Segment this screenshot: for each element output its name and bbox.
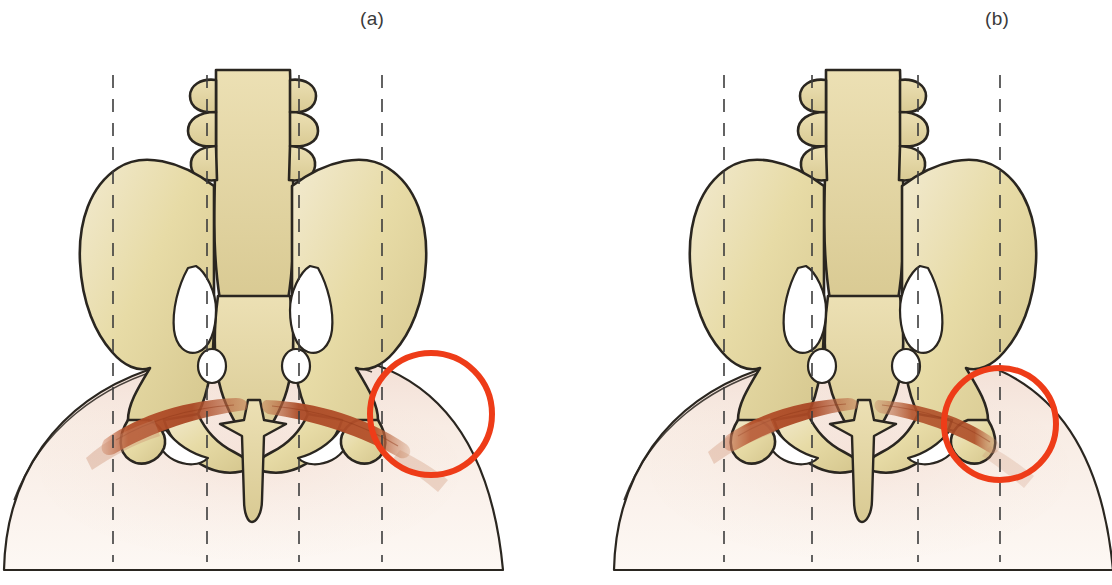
transverse-process-right-2-b — [900, 112, 928, 146]
panel-b-illustration — [0, 0, 1112, 585]
transverse-process-right-1-b — [900, 80, 926, 113]
panel-b-anatomy — [614, 70, 1112, 570]
lumbar-column-b — [824, 70, 904, 300]
transverse-process-left-1-b — [800, 80, 826, 113]
figure-root: (a) (b) — [0, 0, 1112, 585]
panel-label-a: (a) — [360, 8, 384, 30]
sacral-foramen-right-b — [892, 349, 920, 383]
panel-label-b: (b) — [985, 8, 1009, 30]
